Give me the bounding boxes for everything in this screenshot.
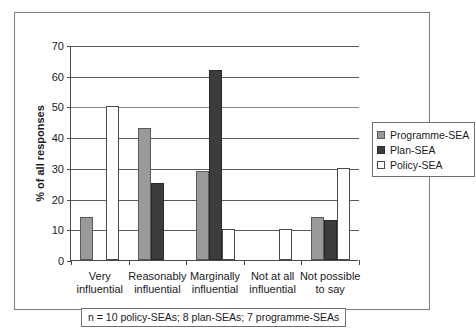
- legend-label-programme-sea: Programme-SEA: [390, 129, 469, 141]
- y-axis-tick-label: 30: [40, 163, 64, 174]
- y-gridline: [71, 46, 359, 47]
- x-axis-tick: [301, 260, 302, 265]
- x-axis-category-label: Not possibleto say: [287, 270, 373, 296]
- y-axis-tick-label: 50: [40, 102, 64, 113]
- y-axis-tick-label: 20: [40, 194, 64, 205]
- bar-plan-sea-1: [151, 183, 164, 260]
- x-axis-tick: [359, 260, 360, 265]
- bar-programme-sea-1: [138, 128, 151, 260]
- legend-swatch-icon-policy-sea: [377, 161, 385, 169]
- bar-policy-sea-2: [222, 229, 235, 260]
- y-axis-tick-label: 10: [40, 225, 64, 236]
- bar-policy-sea-4: [337, 168, 350, 260]
- y-axis-tick: [67, 77, 71, 78]
- x-axis-label-line: Not possible: [287, 270, 373, 283]
- bar-plan-sea-4: [324, 220, 337, 260]
- y-axis-tick: [67, 230, 71, 231]
- chart-outer-frame: % of all responses 010203040506070Veryin…: [14, 12, 430, 310]
- plot-area: 010203040506070VeryinfluentialReasonably…: [70, 46, 358, 261]
- y-axis-tick: [67, 107, 71, 108]
- bar-policy-sea-0: [106, 106, 119, 260]
- bar-programme-sea-2: [196, 171, 209, 260]
- y-axis-tick-label: 0: [40, 256, 64, 267]
- figure: % of all responses 010203040506070Veryin…: [0, 0, 476, 330]
- x-axis-tick: [186, 260, 187, 265]
- chart-footnote: n = 10 policy-SEAs; 8 plan-SEAs; 7 progr…: [81, 308, 346, 327]
- legend-label-policy-sea: Policy-SEA: [390, 159, 443, 171]
- x-axis-label-line: to say: [287, 283, 373, 296]
- y-axis-tick: [67, 138, 71, 139]
- y-axis-tick-label: 60: [40, 71, 64, 82]
- y-axis-tick: [67, 46, 71, 47]
- legend-item-plan-sea: Plan-SEA: [377, 142, 469, 157]
- bar-policy-sea-3: [279, 229, 292, 260]
- bar-programme-sea-0: [80, 217, 93, 260]
- bar-plan-sea-2: [209, 70, 222, 260]
- legend-item-policy-sea: Policy-SEA: [377, 157, 469, 172]
- y-axis-tick: [67, 200, 71, 201]
- x-axis-tick: [129, 260, 130, 265]
- bar-programme-sea-4: [311, 217, 324, 260]
- x-axis-tick: [71, 260, 72, 265]
- y-axis-tick-label: 70: [40, 41, 64, 52]
- y-axis-tick: [67, 169, 71, 170]
- y-axis-tick-label: 40: [40, 133, 64, 144]
- legend-label-plan-sea: Plan-SEA: [390, 144, 436, 156]
- chart-legend: Programme-SEA Plan-SEA Policy-SEA: [372, 122, 475, 177]
- legend-item-programme-sea: Programme-SEA: [377, 127, 469, 142]
- x-axis-tick: [244, 260, 245, 265]
- legend-swatch-icon-programme-sea: [377, 131, 385, 139]
- legend-swatch-icon-plan-sea: [377, 146, 385, 154]
